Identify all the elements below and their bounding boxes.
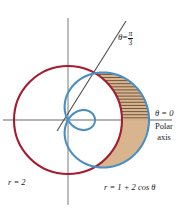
pi-over-three-fraction: π 3 [128,30,134,46]
polar-axis-label-line1: Polar [155,121,173,132]
polar-axis-label: Polar axis [155,121,173,143]
polar-axis-label-line2: axis [155,132,173,143]
theta-pi-over-3-label: θ= π 3 [118,30,133,46]
limacon-equation-label: r = 1 + 2 cos θ [104,182,156,192]
polar-graph-figure: θ= π 3 θ = 0 Polar axis r = 2 r = 1 + 2 … [0,0,187,212]
theta-equals-zero-label: θ = 0 [155,108,173,118]
circle-equation-label: r = 2 [8,177,26,187]
polar-plot-canvas [0,0,187,212]
fraction-denominator: 3 [128,39,134,47]
